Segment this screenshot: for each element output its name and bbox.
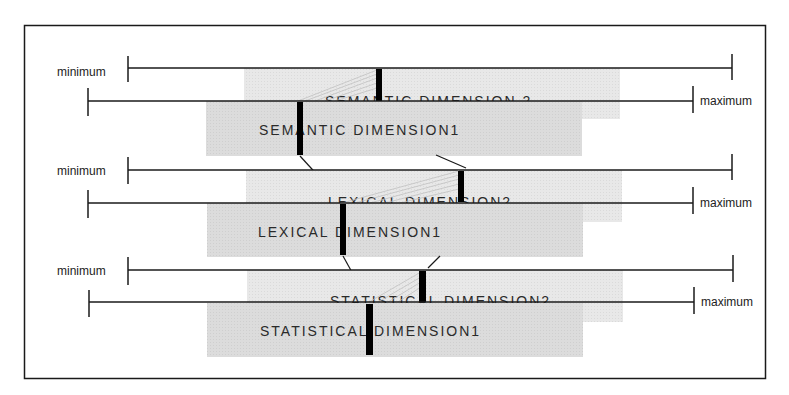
semantic-maximum-label: maximum — [700, 94, 752, 108]
lexical-dimension2-marker — [458, 171, 464, 202]
lexical-maximum-label: maximum — [700, 196, 752, 210]
semantic-dimension1-marker — [297, 102, 303, 155]
lexical-dimension1-label: LEXICAL DIMENSION1 — [258, 224, 442, 240]
lexical-minimum-label: minimum — [57, 164, 106, 178]
lexical-dimension1-marker — [340, 204, 346, 255]
statistical-dimension1-marker — [366, 304, 373, 355]
dimension-diagram: SEMANTIC DIMENSION 2 minimum maximum SEM… — [0, 0, 789, 395]
statistical-dimension2-marker — [419, 271, 426, 302]
semantic-dimension2-marker — [376, 69, 382, 101]
semantic-dimension1-label: SEMANTIC DIMENSION1 — [259, 122, 460, 138]
statistical-minimum-label: minimum — [57, 264, 106, 278]
semantic-minimum-label: minimum — [57, 65, 106, 79]
statistical-maximum-label: maximum — [701, 295, 753, 309]
